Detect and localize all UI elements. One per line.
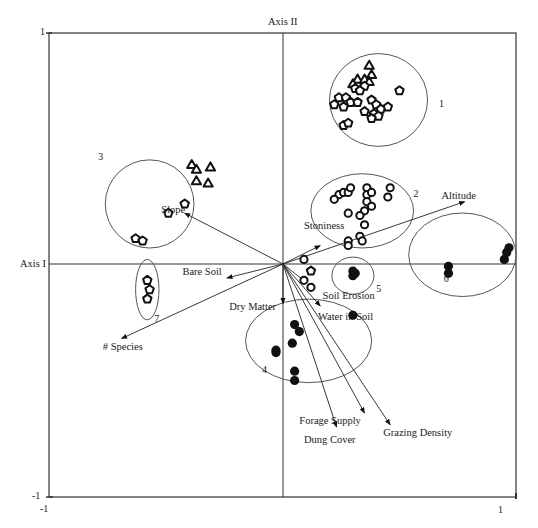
vector-label-water-in-soil: Water in Soil: [318, 312, 373, 323]
filled-circle-marker: [290, 376, 299, 385]
open-pentagon-marker: [307, 267, 315, 275]
filled-circle-marker: [295, 327, 304, 336]
filled-circle-marker: [288, 339, 297, 348]
group-label-1: 1: [439, 99, 444, 109]
x-min-tick: -1: [40, 504, 48, 514]
group-ellipse-6: [409, 213, 516, 297]
open-circle-marker: [307, 284, 314, 291]
open-pentagon-marker: [344, 119, 352, 127]
axis-ii-label: Axis II: [268, 17, 297, 28]
ordination-biplot: [0, 0, 538, 528]
group-label-3: 3: [98, 152, 103, 162]
x-max-tick: 1: [498, 505, 503, 515]
open-pentagon-marker: [356, 86, 364, 94]
open-circle-marker: [361, 221, 368, 228]
open-circle-marker: [387, 184, 394, 191]
open-circle-marker: [356, 212, 363, 219]
vector-label-altitude: Altitude: [441, 191, 475, 202]
open-pentagon-marker: [138, 237, 146, 245]
open-triangle-marker: [206, 162, 215, 170]
group-label-5: 5: [376, 284, 381, 294]
open-pentagon-marker: [353, 98, 361, 106]
open-circle-marker: [368, 203, 375, 210]
vector-label-slope: Slope: [161, 205, 185, 216]
open-pentagon-marker: [395, 86, 403, 94]
vector-slope: [185, 213, 283, 264]
environmental-vectors: [122, 202, 465, 427]
y-max-tick: 1: [40, 27, 45, 37]
open-circle-marker: [384, 193, 391, 200]
open-circle-marker: [359, 237, 366, 244]
open-circle-marker: [368, 189, 375, 196]
vector-grazing-density: [283, 264, 390, 425]
filled-circle-marker: [271, 348, 280, 357]
open-pentagon-marker: [145, 285, 153, 293]
filled-circle-marker: [348, 271, 357, 280]
vector-label-forage-supply: Forage Supply: [299, 416, 361, 427]
open-circle-marker: [300, 256, 307, 263]
open-triangle-marker: [192, 176, 201, 184]
vector-forage-supply: [283, 264, 365, 413]
open-circle-marker: [345, 242, 352, 249]
vector-bare-soil: [227, 264, 283, 278]
open-pentagon-marker: [143, 295, 151, 303]
group-label-4: 4: [262, 365, 267, 375]
group-label-6: 6: [444, 274, 449, 284]
open-circle-marker: [300, 277, 307, 284]
open-pentagon-marker: [330, 100, 338, 108]
group-label-7: 7: [154, 314, 159, 324]
open-pentagon-marker: [143, 276, 151, 284]
vector-altitude: [283, 202, 465, 264]
group-ellipses: [105, 54, 516, 383]
open-triangle-marker: [204, 179, 213, 187]
open-triangle-marker: [365, 61, 374, 69]
vector-label-dung-cover: Dung Cover: [304, 435, 356, 446]
y-min-tick: -1: [32, 491, 40, 501]
open-pentagon-marker: [339, 103, 347, 111]
vector-label-grazing-density: Grazing Density: [383, 428, 452, 439]
vector-label-soil-erosion: Soil Erosion: [323, 291, 375, 302]
open-circle-marker: [345, 210, 352, 217]
vector-label-species: # Species: [103, 342, 143, 353]
filled-circle-marker: [500, 255, 509, 264]
vector-label-dry-matter: Dry Matter: [229, 302, 276, 313]
open-pentagon-marker: [360, 107, 368, 115]
open-circle-marker: [331, 196, 338, 203]
vector-label-bare-soil: Bare Soil: [182, 267, 221, 278]
open-pentagon-marker: [384, 103, 392, 111]
vector-label-stoniness: Stoniness: [304, 221, 344, 232]
open-pentagon-marker: [367, 114, 375, 122]
axis-i-label: Axis I: [20, 259, 46, 270]
open-circle-marker: [347, 184, 354, 191]
group-label-2: 2: [413, 189, 418, 199]
filled-circle-marker: [290, 367, 299, 376]
